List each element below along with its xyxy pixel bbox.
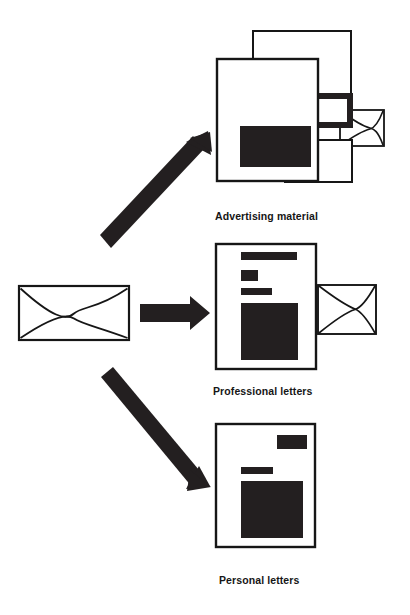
advertising-image-block-lower: [240, 126, 311, 167]
professional-envelope-icon: [318, 285, 376, 334]
professional-body-block: [241, 303, 298, 360]
arrow-to-personal: [101, 367, 211, 491]
personal-date-block: [277, 435, 307, 449]
source-envelope: [19, 286, 129, 340]
personal-letters-group: [216, 424, 315, 547]
arrow-to-professional: [140, 296, 210, 330]
advertising-framed-block: [315, 96, 350, 125]
personal-body-block: [241, 481, 303, 538]
professional-header-bar: [241, 252, 297, 260]
professional-subject-bar: [241, 288, 272, 295]
mail-sorting-diagram: Advertising material Professional letter…: [0, 0, 410, 615]
caption-personal-letters: Personal letters: [219, 575, 299, 586]
caption-advertising-material: Advertising material: [215, 211, 318, 222]
advertising-material-group: [217, 31, 384, 182]
personal-greeting-bar: [241, 467, 273, 474]
arrow-to-advertising: [100, 131, 212, 248]
professional-address-block: [241, 270, 258, 281]
professional-letters-group: [216, 244, 376, 369]
caption-professional-letters: Professional letters: [213, 386, 312, 397]
diagram-canvas: [0, 0, 410, 615]
